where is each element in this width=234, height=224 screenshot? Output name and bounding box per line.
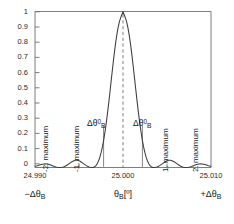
annotation-plus-two-maximum: 2. maximum bbox=[191, 128, 200, 172]
xaxis-sub-right: +ΔθB bbox=[187, 189, 234, 202]
xtick-label-right: 25.010 bbox=[189, 171, 233, 180]
annotation-half-width-left: Δθ0B bbox=[87, 117, 105, 130]
annotation-plus-one-maximum: 1. maximum bbox=[161, 128, 170, 172]
xaxis-sub-right-subscript: B bbox=[217, 193, 222, 200]
xaxis-label-theta-b: θB[º] bbox=[99, 189, 147, 202]
half-width-right-delta-theta: Δθ bbox=[133, 118, 143, 128]
annotation-minus-one-maximum: -1. maximum bbox=[72, 126, 81, 172]
xtick-label-left: 24.990 bbox=[13, 171, 57, 180]
annotation-half-width-right: Δθ0B bbox=[133, 117, 151, 130]
half-width-left-subscript: B bbox=[101, 122, 105, 129]
xaxis-theta-unit: [º] bbox=[124, 189, 132, 199]
half-width-left-delta-theta: Δθ bbox=[87, 118, 97, 128]
half-width-right-subscript: B bbox=[147, 122, 151, 129]
xaxis-sub-left-text: −Δθ bbox=[25, 189, 41, 199]
xtick-label-centre: 25.000 bbox=[101, 171, 145, 180]
annotation-minus-two-maximum: -2. maximum bbox=[41, 126, 50, 172]
xaxis-sub-right-text: +Δθ bbox=[201, 189, 217, 199]
bragg-rocking-curve-figure: 1 0.9 0.8 0.7 0.6 0.5 0.4 0.3 0.2 0.1 0 bbox=[0, 0, 234, 224]
xaxis-sub-left: −ΔθB bbox=[11, 189, 59, 202]
y-tick-marks bbox=[35, 12, 40, 164]
xaxis-sub-left-subscript: B bbox=[41, 193, 46, 200]
